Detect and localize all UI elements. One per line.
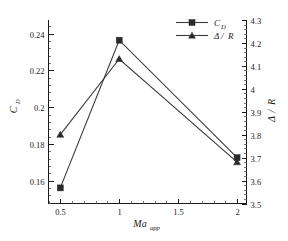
x-tick-label: 1.5 xyxy=(173,207,184,217)
x-axis-title-subscript: app xyxy=(150,224,161,231)
dual-axis-line-chart: 0.160.180.20.220.24 3.53.63.73.83.944.14… xyxy=(0,0,288,241)
legend-label-delta-r-denominator: R xyxy=(227,31,234,41)
x-tick-label: 2 xyxy=(235,207,239,217)
legend-label-cd-subscript: D xyxy=(220,23,226,30)
right-tick-label: 3.7 xyxy=(251,154,262,164)
right-axis-tick-labels: 3.53.63.73.83.944.14.24.3 xyxy=(251,16,262,210)
left-tick-label: 0.2 xyxy=(34,103,45,113)
legend-label-delta-r-base: Δ xyxy=(213,31,219,41)
left-axis-tick-labels: 0.160.180.20.220.24 xyxy=(30,30,46,187)
x-axis-tick-labels: 0.511.52 xyxy=(55,207,239,217)
left-tick-label: 0.18 xyxy=(30,140,45,150)
right-tick-label: 4.2 xyxy=(251,39,262,49)
right-axis-title: Δ / R xyxy=(266,99,277,123)
data-point-marker-square xyxy=(116,37,122,43)
x-axis-title-base: Ma xyxy=(132,218,146,229)
left-tick-label: 0.22 xyxy=(30,66,45,76)
right-tick-label: 4 xyxy=(251,85,256,95)
left-tick-label: 0.16 xyxy=(30,177,45,187)
right-tick-label: 4.1 xyxy=(251,62,262,72)
right-tick-label: 3.8 xyxy=(251,131,262,141)
right-tick-label: 3.9 xyxy=(251,108,262,118)
x-tick-label: 1 xyxy=(117,207,121,217)
left-tick-label: 0.24 xyxy=(30,30,46,40)
chart-figure: 0.160.180.20.220.24 3.53.63.73.83.944.14… xyxy=(0,0,288,241)
right-axis-title-base: Δ xyxy=(266,116,277,123)
left-axis-title-base: C xyxy=(8,106,19,113)
left-axis-title-subscript: D xyxy=(14,99,21,105)
x-tick-label: 0.5 xyxy=(55,207,66,217)
right-tick-label: 4.3 xyxy=(251,16,262,26)
legend-label-cd-base: C xyxy=(214,18,221,28)
left-axis-title: C D xyxy=(8,99,21,113)
data-point-marker-square xyxy=(57,185,63,191)
right-axis-title-denominator: R xyxy=(266,99,277,106)
right-tick-label: 3.5 xyxy=(251,200,262,210)
right-axis-title-separator: / xyxy=(266,108,277,113)
x-axis-title: Ma app xyxy=(132,218,160,231)
right-tick-label: 3.6 xyxy=(251,177,262,187)
legend-marker-square-icon xyxy=(189,20,195,26)
